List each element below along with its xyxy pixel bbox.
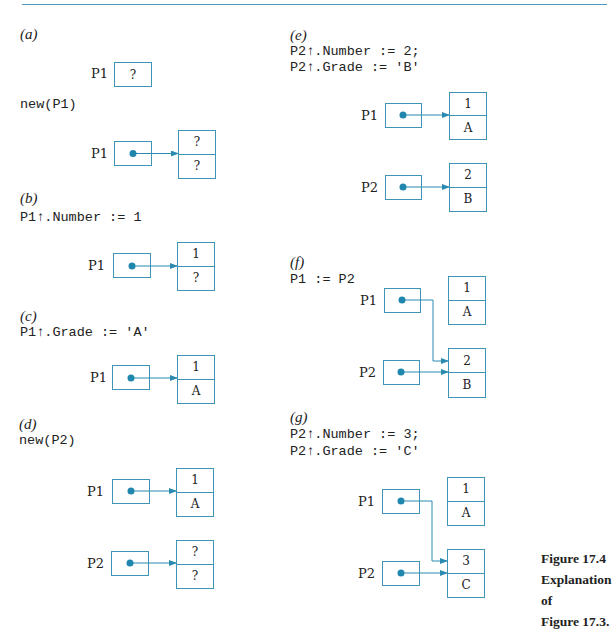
caption-line-2: Explanation of	[541, 569, 612, 611]
figure-caption: Figure 17.4 Explanation of Figure 17.3.	[541, 548, 612, 632]
caption-line-1: Figure 17.4	[541, 548, 612, 569]
caption-line-3: Figure 17.3.	[541, 611, 612, 632]
